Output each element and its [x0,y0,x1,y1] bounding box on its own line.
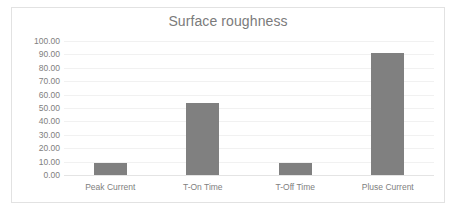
y-axis-tick-label: 100.00 [12,36,60,46]
y-axis-tick-label: 40.00 [12,116,60,126]
x-axis-category-label: Peak Current [64,182,157,192]
y-axis-tick-label: 10.00 [12,157,60,167]
y-axis-tick-label: 90.00 [12,49,60,59]
bar-series [64,41,434,175]
chart-title: Surface roughness [0,13,456,29]
bar-slot [64,41,157,175]
x-axis-category-labels: Peak CurrentT-On TimeT-Off TimePluse Cur… [64,182,434,192]
chart-container: Surface roughness 100.0090.0080.0070.006… [0,0,456,216]
y-axis-tick-label: 20.00 [12,143,60,153]
x-axis-category-label: T-Off Time [249,182,342,192]
y-axis-tick-label: 60.00 [12,90,60,100]
x-axis-category-label: Pluse Current [342,182,435,192]
y-axis-tick-label: 80.00 [12,63,60,73]
y-axis-tick-label: 0.00 [12,170,60,180]
bar[interactable] [94,163,127,175]
gridline [64,175,434,176]
bar-slot [342,41,435,175]
bar[interactable] [186,103,219,175]
y-axis-tick-label: 70.00 [12,76,60,86]
y-axis-tick-labels: 100.0090.0080.0070.0060.0050.0040.0030.0… [12,41,60,175]
y-axis-tick-label: 30.00 [12,130,60,140]
bar[interactable] [279,163,312,175]
x-axis-category-label: T-On Time [157,182,250,192]
bar-slot [249,41,342,175]
plot-area [64,41,434,175]
bar-slot [157,41,250,175]
bar[interactable] [371,53,404,175]
y-axis-tick-label: 50.00 [12,103,60,113]
